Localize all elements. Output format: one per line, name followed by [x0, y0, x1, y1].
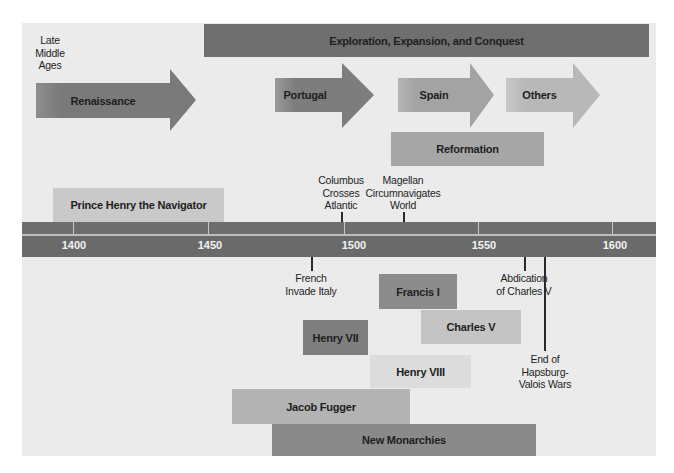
- bar-label: Jacob Fugger: [286, 401, 356, 413]
- tick-1600: [612, 222, 613, 235]
- henry-viii-bar: Henry VIII: [370, 355, 471, 388]
- arrow-label: Spain: [398, 78, 470, 112]
- bar-label: Henry VII: [313, 332, 359, 344]
- label-line: End of: [514, 353, 576, 366]
- bar-label: New Monarchies: [362, 434, 446, 446]
- year-1600: 1600: [595, 239, 635, 251]
- label-line: Middle: [30, 47, 70, 60]
- label-line: of Charles V: [489, 285, 559, 298]
- year-1550: 1550: [464, 239, 504, 251]
- jacob-fugger-bar: Jacob Fugger: [232, 389, 410, 424]
- hapsburg-valois-marker: [544, 257, 546, 351]
- late-middle-ages-label: Late Middle Ages: [30, 34, 70, 72]
- bar-label: Prince Henry the Navigator: [70, 199, 206, 211]
- tick-1550: [478, 222, 479, 235]
- label-line: World: [363, 199, 443, 212]
- prince-henry-bar: Prince Henry the Navigator: [53, 188, 224, 222]
- arrow-label: Others: [506, 78, 573, 112]
- label-line: Abdication: [489, 272, 559, 285]
- french-invade-marker: [311, 257, 313, 271]
- year-1450: 1450: [190, 239, 230, 251]
- abdication-charles-v-label: Abdication of Charles V: [489, 272, 559, 297]
- exploration-expansion-conquest-bar: Exploration, Expansion, and Conquest: [204, 24, 649, 57]
- tick-1450: [208, 222, 209, 235]
- year-1500: 1500: [334, 239, 374, 251]
- arrow-label: Portugal: [275, 78, 335, 112]
- label-line: Hapsburg-: [514, 366, 576, 379]
- year-1400: 1400: [54, 239, 94, 251]
- others-arrow: Others: [506, 63, 600, 128]
- label-line: Crosses: [311, 187, 371, 200]
- spain-arrow: Spain: [398, 63, 494, 128]
- label-line: Invade Italy: [276, 285, 346, 298]
- end-hapsburg-valois-label: End of Hapsburg- Valois Wars: [514, 353, 576, 391]
- bar-label: Exploration, Expansion, and Conquest: [329, 35, 524, 47]
- reformation-bar: Reformation: [391, 132, 544, 166]
- bar-label: Henry VIII: [396, 366, 445, 378]
- columbus-event-label: Columbus Crosses Atlantic: [311, 174, 371, 212]
- label-line: Columbus: [311, 174, 371, 187]
- french-invade-italy-label: French Invade Italy: [276, 272, 346, 297]
- renaissance-arrow: Renaissance: [36, 69, 196, 131]
- abdication-marker: [524, 257, 526, 271]
- label-line: Valois Wars: [514, 378, 576, 391]
- tick-1400: [73, 222, 74, 235]
- francis-i-bar: Francis I: [379, 274, 457, 309]
- label-line: Circumnavigates: [363, 187, 443, 200]
- tick-1500: [344, 222, 345, 235]
- new-monarchies-bar: New Monarchies: [272, 424, 536, 456]
- columbus-marker: [341, 212, 343, 222]
- bar-label: Reformation: [436, 143, 499, 155]
- magellan-marker: [403, 212, 405, 222]
- bar-label: Francis I: [396, 286, 439, 298]
- bar-label: Charles V: [447, 321, 496, 333]
- label-line: Magellan: [363, 174, 443, 187]
- charles-v-bar: Charles V: [421, 310, 521, 344]
- arrow-label: Renaissance: [36, 83, 170, 118]
- label-line: French: [276, 272, 346, 285]
- label-line: Late: [30, 34, 70, 47]
- timeline-upper-band: [22, 222, 656, 234]
- magellan-event-label: Magellan Circumnavigates World: [363, 174, 443, 212]
- henry-vii-bar: Henry VII: [303, 320, 368, 355]
- portugal-arrow: Portugal: [275, 63, 374, 128]
- label-line: Atlantic: [311, 199, 371, 212]
